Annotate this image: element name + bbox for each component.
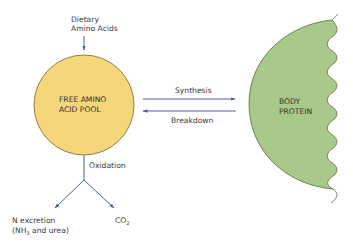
protein-label-line2: PROTEIN	[279, 107, 312, 116]
amino-acid-metabolism-diagram: Dietary Amino Acids FREE AMINO ACID POOL…	[0, 0, 353, 246]
dietary-amino-acids-label-line2: Amino Acids	[71, 24, 118, 33]
n-excretion-arrow	[55, 180, 84, 208]
oxidation-label: Oxidation	[89, 161, 126, 170]
n-excretion-label: N excretion	[12, 216, 56, 225]
pool-label-line2: ACID POOL	[59, 105, 101, 114]
breakdown-label: Breakdown	[171, 116, 214, 125]
co2-arrow	[84, 180, 114, 208]
pool-label-line1: FREE AMINO	[59, 95, 106, 104]
co2-label: CO2	[115, 216, 130, 226]
body-protein-wavy-tail-bottom	[331, 189, 337, 203]
dietary-amino-acids-label: Dietary	[71, 15, 99, 24]
n-excretion-label-line2: (NH3 and urea)	[12, 226, 69, 236]
synthesis-label: Synthesis	[175, 86, 212, 95]
protein-label-line1: BODY	[279, 97, 300, 106]
body-protein-wavy-tail-top	[332, 14, 338, 20]
